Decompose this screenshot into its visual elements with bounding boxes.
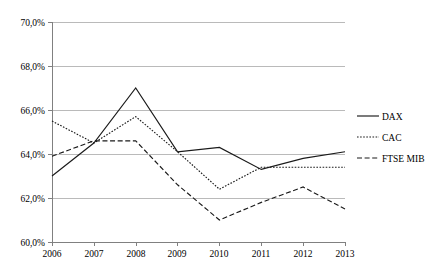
legend-label-dax: DAX <box>382 112 403 122</box>
y-axis-ticks <box>48 22 52 242</box>
y-tick-label-66: 66,0% <box>20 106 45 116</box>
axes <box>52 22 345 242</box>
series-line-ftse-mib <box>52 141 345 220</box>
y-tick-label-60: 60,0% <box>20 238 45 248</box>
series-line-dax <box>52 88 345 176</box>
chart-canvas: 70,0% 68,0% 66,0% 64,0% 62,0% 60,0% 2006… <box>0 0 430 269</box>
x-tick-label-2008: 2008 <box>127 249 146 259</box>
y-tick-label-70: 70,0% <box>20 18 45 28</box>
y-axis-labels: 70,0% 68,0% 66,0% 64,0% 62,0% 60,0% <box>20 18 45 248</box>
legend: DAX CAC FTSE MIB <box>357 112 425 164</box>
gridlines <box>52 22 345 198</box>
x-axis-labels: 2006 2007 2008 2009 2010 2011 2012 2013 <box>43 249 355 259</box>
series-line-cac <box>52 117 345 190</box>
y-tick-label-64: 64,0% <box>20 150 45 160</box>
x-tick-label-2006: 2006 <box>43 249 62 259</box>
y-tick-label-62: 62,0% <box>20 194 45 204</box>
x-axis-ticks <box>52 242 345 246</box>
x-tick-label-2011: 2011 <box>252 249 271 259</box>
x-tick-label-2012: 2012 <box>294 249 313 259</box>
x-tick-label-2007: 2007 <box>85 249 104 259</box>
x-tick-label-2013: 2013 <box>336 249 355 259</box>
legend-label-ftse-mib: FTSE MIB <box>382 154 425 164</box>
x-tick-label-2009: 2009 <box>168 249 187 259</box>
line-chart: 70,0% 68,0% 66,0% 64,0% 62,0% 60,0% 2006… <box>0 0 430 269</box>
legend-label-cac: CAC <box>382 133 402 143</box>
y-tick-label-68: 68,0% <box>20 62 45 72</box>
x-tick-label-2010: 2010 <box>210 249 229 259</box>
